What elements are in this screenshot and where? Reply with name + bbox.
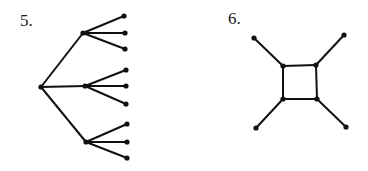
vertex <box>251 35 256 40</box>
figure-5-tree <box>38 13 129 160</box>
edge <box>86 142 127 158</box>
vertex <box>123 67 128 72</box>
vertex <box>123 101 128 106</box>
vertex <box>123 83 128 88</box>
vertex <box>124 139 129 144</box>
vertex <box>313 62 318 67</box>
figure-6-square-graph <box>251 32 348 130</box>
edge <box>283 65 316 66</box>
edge <box>83 33 125 49</box>
vertex <box>253 125 258 130</box>
vertex <box>121 13 126 18</box>
vertex <box>80 30 85 35</box>
edge <box>316 65 317 99</box>
edge <box>41 87 86 142</box>
vertex <box>38 84 43 89</box>
vertex <box>343 124 348 129</box>
vertex <box>280 96 285 101</box>
vertex <box>82 83 87 88</box>
edge <box>86 124 127 142</box>
edge <box>41 33 83 87</box>
edge <box>256 99 283 128</box>
edge <box>317 99 346 127</box>
vertex <box>122 46 127 51</box>
edge <box>316 35 344 65</box>
edge <box>83 16 124 33</box>
edge <box>254 38 283 66</box>
vertex <box>83 139 88 144</box>
vertex <box>314 96 319 101</box>
vertex <box>341 32 346 37</box>
vertex <box>124 155 129 160</box>
edge <box>41 86 85 87</box>
vertex <box>122 30 127 35</box>
diagram-canvas <box>0 0 368 171</box>
edge <box>85 86 126 104</box>
vertex <box>280 63 285 68</box>
vertex <box>124 121 129 126</box>
edge <box>85 70 126 86</box>
